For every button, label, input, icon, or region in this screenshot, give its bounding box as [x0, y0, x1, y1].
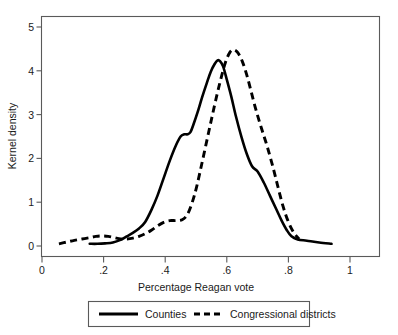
y-tick-label-group: 5 4 3 2 1 0: [28, 21, 34, 252]
x-tick-label: .4: [161, 264, 170, 276]
x-tick-label-group: 0 .2 .4 .6 .8 1: [39, 264, 353, 276]
y-tick-label: 2: [28, 152, 34, 164]
y-axis-title: Kernel density: [6, 102, 18, 169]
legend-label-counties: Counties: [145, 308, 186, 320]
y-tick-label: 1: [28, 196, 34, 208]
chart-canvas: 5 4 3 2 1 0 0 .2 .4 .6 .8 1 Percentage R…: [0, 0, 398, 335]
x-axis-ticks: [42, 257, 350, 263]
x-tick-label: 0: [39, 264, 45, 276]
y-tick-label: 4: [28, 65, 34, 77]
legend: Counties Congressional districts: [89, 302, 336, 327]
kernel-density-figure: 5 4 3 2 1 0 0 .2 .4 .6 .8 1 Percentage R…: [0, 0, 398, 335]
x-axis-title: Percentage Reagan vote: [138, 281, 254, 293]
y-tick-label: 0: [28, 240, 34, 252]
x-tick-label: .8: [284, 264, 293, 276]
x-tick-label: .2: [99, 264, 108, 276]
plot-frame: [42, 17, 380, 257]
x-tick-label: .6: [222, 264, 231, 276]
y-tick-label: 5: [28, 21, 34, 33]
series-line-counties: [90, 60, 332, 244]
series-line-congressional-districts: [59, 50, 299, 244]
legend-label-congressional-districts: Congressional districts: [230, 308, 336, 320]
x-tick-label: 1: [347, 264, 353, 276]
y-tick-label: 3: [28, 109, 34, 121]
y-axis-ticks: [37, 27, 42, 246]
